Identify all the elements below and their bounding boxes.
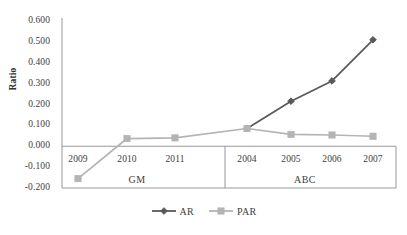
data-point-marker bbox=[370, 133, 376, 139]
legend-marker-diamond-icon bbox=[151, 205, 177, 217]
data-point-marker bbox=[218, 208, 224, 214]
legend-item-ar[interactable]: AR bbox=[151, 205, 195, 217]
data-point-marker bbox=[172, 135, 178, 141]
data-point-marker bbox=[160, 208, 167, 215]
data-point-marker bbox=[288, 131, 294, 137]
data-point-marker bbox=[75, 176, 81, 182]
legend-item-par[interactable]: PAR bbox=[208, 205, 256, 217]
line-chart: Ratio 0.6000.5000.4000.3000.2000.1000.00… bbox=[0, 0, 407, 235]
series-par bbox=[75, 125, 376, 181]
series-ar bbox=[244, 36, 377, 131]
data-point-marker bbox=[124, 135, 130, 141]
legend: ARPAR bbox=[0, 205, 407, 217]
data-point-marker bbox=[329, 132, 335, 138]
data-point-marker bbox=[244, 125, 250, 131]
legend-marker-square-icon bbox=[208, 205, 234, 217]
legend-label: AR bbox=[180, 206, 195, 217]
plot-area bbox=[0, 0, 407, 235]
legend-label: PAR bbox=[237, 206, 256, 217]
series-line bbox=[247, 40, 373, 129]
